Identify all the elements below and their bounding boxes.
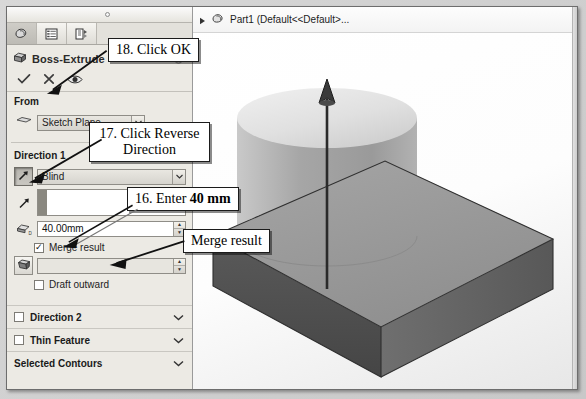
direction2-label: Direction 2 — [30, 312, 167, 323]
callout-click-reverse: 17. Click Reverse Direction — [89, 122, 210, 162]
merge-result-label: Merge result — [49, 242, 105, 253]
ok-button[interactable] — [17, 71, 31, 89]
eye-icon[interactable] — [67, 71, 83, 89]
selected-contours-label: Selected Contours — [14, 358, 167, 369]
draft-outward-checkbox-row[interactable]: Draft outward — [34, 279, 186, 290]
callout-prefix: 16. Enter — [135, 191, 190, 206]
callout-merge-result: Merge result — [183, 229, 270, 253]
chevron-down-icon[interactable] — [173, 311, 184, 323]
depth-input[interactable]: 40.00mm ▲ ▼ — [37, 221, 186, 237]
reverse-direction-button[interactable] — [14, 167, 33, 186]
direction1-end-condition-value: Blind — [42, 171, 64, 182]
page-title: Boss-Extrude — [32, 53, 105, 65]
panel-top-strip — [7, 7, 192, 23]
cancel-button[interactable] — [43, 71, 55, 89]
draft-angle-spinner[interactable]: ▲ ▼ — [173, 259, 185, 273]
callout-bold-value: 40 mm — [190, 191, 231, 206]
spinner-up-icon[interactable]: ▲ — [174, 259, 185, 267]
thin-feature-checkbox[interactable] — [14, 335, 24, 345]
configuration-manager-tab[interactable] — [67, 23, 97, 44]
chevron-down-icon[interactable] — [173, 334, 184, 346]
boss-extrude-icon — [13, 50, 27, 68]
draft-angle-button[interactable] — [14, 256, 33, 275]
panel-pin-icon[interactable] — [105, 12, 110, 17]
draft-outward-checkbox[interactable] — [34, 280, 44, 290]
draft-outward-label: Draft outward — [49, 279, 109, 290]
graphics-area[interactable]: Part1 (Default<<Default>... — [193, 7, 577, 389]
from-section-heading: From — [7, 92, 192, 109]
chevron-down-icon[interactable] — [172, 170, 185, 184]
svg-text:D1: D1 — [28, 230, 32, 235]
direction-arrow-icon — [14, 189, 33, 216]
property-list-icon — [45, 28, 58, 40]
section-selected-contours[interactable]: Selected Contours — [7, 351, 192, 374]
sketch-plane-icon — [14, 113, 33, 132]
spinner-up-icon[interactable]: ▲ — [174, 222, 185, 230]
feature-manager-tab[interactable] — [7, 23, 37, 44]
isometric-model — [193, 21, 577, 379]
merge-result-checkbox-row[interactable]: Merge result — [34, 242, 186, 253]
draft-angle-input[interactable]: ▲ ▼ — [37, 258, 186, 274]
selection-color-swatch — [38, 190, 47, 215]
viewport-right-edge — [572, 7, 577, 389]
model-viewport[interactable] — [193, 33, 577, 389]
property-manager-tab[interactable] — [37, 23, 67, 44]
feature-action-row — [7, 70, 192, 92]
thin-feature-label: Thin Feature — [30, 335, 167, 346]
direction1-end-condition-select[interactable]: Blind — [37, 169, 186, 185]
reverse-direction-arrow-icon — [17, 168, 30, 186]
configuration-icon — [75, 28, 88, 40]
callout-enter-40mm: 16. Enter 40 mm — [127, 187, 239, 211]
section-direction-2[interactable]: Direction 2 — [7, 305, 192, 328]
callout-click-ok: 18. Click OK — [108, 38, 199, 62]
feature-tree-icon — [14, 27, 29, 40]
direction2-checkbox[interactable] — [14, 312, 24, 322]
chevron-down-icon[interactable] — [173, 357, 184, 369]
merge-result-checkbox[interactable] — [34, 243, 44, 253]
draft-angle-icon — [17, 257, 31, 275]
section-thin-feature[interactable]: Thin Feature — [7, 328, 192, 351]
direction1-section-body: Blind — [7, 163, 192, 297]
solidworks-window: Boss-Extrude ? — [6, 6, 578, 390]
depth-icon: D1 — [14, 219, 33, 238]
depth-value: 40.00mm — [42, 223, 84, 234]
spinner-down-icon[interactable]: ▼ — [174, 266, 185, 273]
screenshot-root: Boss-Extrude ? — [0, 0, 586, 399]
